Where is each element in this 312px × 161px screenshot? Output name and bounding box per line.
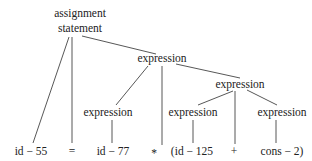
leaf-id-125: (id − 125: [171, 145, 214, 158]
node-expression-right-right: expression: [257, 106, 306, 119]
edge-root-to-leaf_id55: [33, 37, 69, 143]
leaf-cons-2: cons − 2): [261, 145, 304, 158]
node-root-line-2: statement: [58, 22, 103, 34]
leaf-star: *: [151, 147, 157, 159]
node-expression-right-left: expression: [168, 106, 217, 119]
node-expression-right: expression: [215, 78, 264, 91]
node-expression-top: expression: [137, 52, 186, 65]
edge-expr_top-to-expr_left: [116, 66, 148, 105]
leaf-id-77: id − 77: [97, 145, 130, 157]
leaf-plus: +: [231, 145, 238, 157]
node-root-line-1: assignment: [54, 7, 107, 20]
node-expression-left: expression: [83, 106, 132, 119]
leaf-id-55: id − 55: [15, 145, 48, 157]
leaf-equals: =: [69, 145, 76, 157]
edge-expr_top-to-expr_right: [176, 64, 240, 78]
tree-labels: assignment statement expression expressi…: [15, 7, 307, 159]
parse-tree-diagram: assignment statement expression expressi…: [0, 0, 312, 161]
edge-expr_right-to-expr_rl: [198, 91, 233, 105]
edge-expr_right-to-expr_rr: [247, 90, 277, 105]
